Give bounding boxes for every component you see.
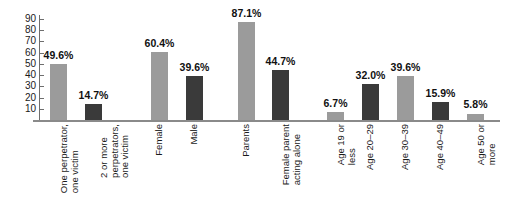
bar-value-label: 60.4% [138, 38, 182, 49]
bar [467, 114, 484, 121]
y-axis-tick [39, 30, 44, 31]
bar [186, 76, 203, 120]
category-label: Female parent acting alone [281, 124, 302, 185]
y-axis-label-wrap: 60 [0, 48, 36, 58]
y-axis-tick [39, 98, 44, 99]
y-axis-tick [39, 64, 44, 65]
y-axis-label-wrap: 90 [0, 14, 36, 24]
y-axis-label: 40 [2, 70, 36, 80]
bar-value-label: 5.8% [454, 99, 498, 110]
category-label: Age 40–49 [435, 124, 446, 170]
category-label: Age 19 or less [336, 124, 357, 165]
category-label: Parents [241, 124, 252, 157]
y-axis-label-wrap: 30 [0, 81, 36, 91]
bar-value-label: 49.6% [37, 50, 81, 61]
bar-value-label: 44.7% [259, 56, 303, 67]
y-axis-label: 80 [2, 25, 36, 35]
y-axis-tick [39, 86, 44, 87]
bar-value-label: 39.6% [384, 62, 428, 73]
y-axis-label: 20 [2, 93, 36, 103]
bar [362, 84, 379, 120]
bar-value-label: 14.7% [72, 90, 116, 101]
y-axis-label-wrap: 40 [0, 70, 36, 80]
y-axis-label-wrap: 10 [0, 104, 36, 114]
bar [238, 22, 255, 120]
bar-chart: 908070605040302010 49.6%One perpetrator,… [0, 0, 518, 209]
y-axis-label: 30 [2, 81, 36, 91]
bar [397, 76, 414, 120]
category-label: Age 30–39 [400, 124, 411, 170]
bar [327, 112, 344, 120]
y-axis-tick [39, 19, 44, 20]
category-label: One perpetrator, one victim [59, 124, 80, 193]
y-axis-label-wrap: 50 [0, 59, 36, 69]
category-label: 2 or more perpetrators, one victim [99, 124, 131, 178]
y-axis-tick [39, 109, 44, 110]
y-axis-label: 50 [2, 59, 36, 69]
category-label: Age 50 or more [476, 124, 497, 165]
bar [272, 70, 289, 120]
bar-value-label: 15.9% [419, 88, 463, 99]
bar [85, 104, 102, 120]
category-label: Female [154, 124, 165, 156]
x-axis-baseline [33, 120, 500, 122]
category-label: Age 20–29 [365, 124, 376, 170]
bar [432, 102, 449, 120]
y-axis-label: 70 [2, 36, 36, 46]
bar-value-label: 87.1% [225, 8, 269, 19]
y-axis-tick [39, 75, 44, 76]
bar [151, 52, 168, 120]
bar-value-label: 6.7% [314, 98, 358, 109]
category-label: Male [189, 124, 200, 145]
y-axis-label: 10 [2, 104, 36, 114]
y-axis-label-wrap: 70 [0, 36, 36, 46]
y-axis-label: 60 [2, 48, 36, 58]
bar-value-label: 39.6% [173, 62, 217, 73]
bar [50, 64, 67, 120]
y-axis-label-wrap: 80 [0, 25, 36, 35]
y-axis-tick [39, 41, 44, 42]
y-axis-label: 90 [2, 14, 36, 24]
y-axis-label-wrap: 20 [0, 93, 36, 103]
